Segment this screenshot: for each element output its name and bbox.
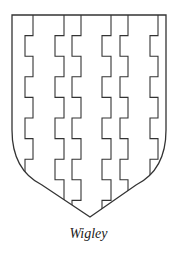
potent-line-2 bbox=[55, 15, 64, 220]
shield-outline bbox=[12, 15, 166, 217]
potent-line-1 bbox=[25, 15, 33, 220]
potent-lines bbox=[25, 15, 158, 220]
shield-icon bbox=[0, 0, 177, 220]
potent-line-6 bbox=[150, 15, 158, 220]
potent-line-5 bbox=[120, 15, 128, 220]
potent-line-4 bbox=[102, 15, 111, 220]
caption-label: Wigley bbox=[0, 226, 177, 242]
potent-line-3 bbox=[72, 15, 81, 220]
coat-of-arms-figure: Wigley bbox=[0, 0, 177, 254]
